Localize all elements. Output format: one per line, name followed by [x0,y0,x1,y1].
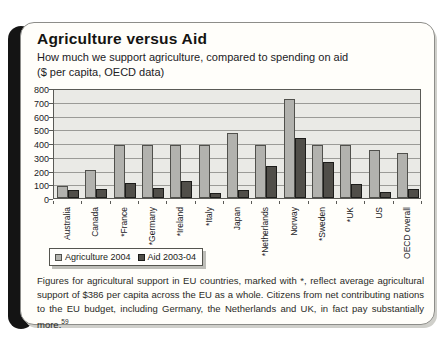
legend-item-agriculture: Agriculture 2004 [55,252,131,262]
y-axis-tick [49,144,53,145]
bar-aid-2003-04-norway [295,138,306,198]
y-axis-tick [49,172,53,173]
footnote-reference-number: 59 [61,318,68,325]
bar-agriculture-2004-canada [85,170,96,198]
x-axis-tick [336,201,337,204]
x-axis-tick [81,201,82,204]
bar-agriculture-2004-italy [199,145,210,198]
x-axis-tick [251,201,252,204]
x-axis-label-netherlands: *Netherlands [260,207,270,256]
figure-subtitle: How much we support agriculture, compare… [37,50,348,80]
x-axis-label-australia: Australia [62,207,72,240]
bar-aid-2003-04-ireland [181,181,192,198]
gridline-500 [54,130,420,131]
bar-agriculture-2004-oecdoverall [397,153,408,198]
x-axis-label-oecdoverall: OECD overall [402,207,412,259]
x-axis-tick [223,201,224,204]
bar-agriculture-2004-sweden [312,145,323,198]
y-axis-tick [49,158,53,159]
legend-label: Aid 2003-04 [148,252,197,262]
x-axis-label-ireland: *Ireland [175,207,185,236]
x-axis-label-uk: *UK [345,207,355,222]
x-axis-label-norway: Norway [289,207,299,236]
bar-agriculture-2004-uk [340,145,351,198]
x-axis-tick [110,201,111,204]
bar-aid-2003-04-germany [153,188,164,198]
bar-agriculture-2004-australia [57,186,68,198]
y-axis-label-400: 400 [25,140,49,150]
chart-legend: Agriculture 2004Aid 2003-04 [49,248,203,266]
y-axis-label-0: 0 [25,195,49,205]
figure-title: Agriculture versus Aid [37,30,207,48]
bar-agriculture-2004-germany [142,145,153,198]
y-axis-label-100: 100 [25,181,49,191]
legend-item-aid: Aid 2003-04 [138,252,197,262]
bar-aid-2003-04-canada [96,189,107,198]
footnote-text: Figures for agricultural support in EU c… [37,275,424,331]
bar-aid-2003-04-netherlands [266,166,277,198]
x-axis-tick [364,201,365,204]
y-axis-tick [49,199,53,200]
x-axis-tick [195,201,196,204]
bar-agriculture-2004-japan [227,133,238,198]
x-axis-tick [166,201,167,204]
figure-panel: Agriculture versus Aid How much we suppo… [20,22,435,325]
x-axis-label-sweden: *Sweden [317,207,327,241]
aid-swatch-icon [138,254,145,261]
bar-aid-2003-04-japan [238,190,249,198]
subtitle-line-2: ($ per capita, OECD data) [37,66,164,78]
bar-agriculture-2004-netherlands [255,145,266,198]
y-axis-tick [49,89,53,90]
y-axis-tick [49,117,53,118]
y-axis-label-300: 300 [25,154,49,164]
x-axis-label-canada: Canada [90,207,100,237]
agriculture-swatch-icon [55,254,62,261]
y-axis-label-700: 700 [25,99,49,109]
subtitle-line-1: How much we support agriculture, compare… [37,51,348,63]
legend-label: Agriculture 2004 [65,252,131,262]
x-axis-label-italy: *Italy [204,207,214,226]
bar-aid-2003-04-sweden [323,162,334,198]
bar-agriculture-2004-france [114,145,125,198]
y-axis-tick [49,185,53,186]
bar-aid-2003-04-oecdoverall [408,189,419,198]
x-axis-label-france: *France [119,207,129,237]
x-axis-tick [393,201,394,204]
x-axis-tick [279,201,280,204]
gridline-700 [54,103,420,104]
y-axis-label-500: 500 [25,126,49,136]
bar-agriculture-2004-us [369,150,380,198]
x-axis-tick [138,201,139,204]
x-axis-tick [421,201,422,204]
x-axis-label-japan: Japan [232,207,242,230]
bar-agriculture-2004-ireland [170,145,181,198]
y-axis-tick [49,130,53,131]
bar-agriculture-2004-norway [284,99,295,198]
x-axis-label-germany: *Germany [147,207,157,245]
bar-aid-2003-04-france [125,183,136,198]
x-axis-tick [308,201,309,204]
bar-aid-2003-04-italy [210,193,221,198]
bar-aid-2003-04-us [380,192,391,198]
y-axis-tick [49,103,53,104]
y-axis-label-600: 600 [25,113,49,123]
y-axis-label-200: 200 [25,168,49,178]
plot-area [53,89,421,199]
page: Agriculture versus Aid How much we suppo… [0,0,445,351]
y-axis-label-800: 800 [25,85,49,95]
x-axis-tick [53,201,54,204]
bar-aid-2003-04-australia [68,190,79,198]
bar-aid-2003-04-uk [351,184,362,198]
figure-footnote: Figures for agricultural support in EU c… [37,274,424,332]
x-axis-label-us: US [374,207,384,219]
gridline-600 [54,117,420,118]
